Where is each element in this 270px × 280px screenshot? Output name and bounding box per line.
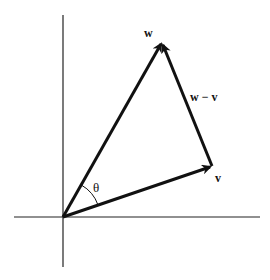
- vector-v-arrow: [63, 167, 210, 217]
- label-w-minus-v: w − v: [190, 90, 218, 104]
- label-w: w: [144, 26, 153, 40]
- label-theta: θ: [93, 180, 99, 195]
- vector-diagram: w w − v v θ: [0, 0, 270, 280]
- vector-w-arrow: [63, 44, 161, 217]
- vector-w-minus-v-arrow: [163, 45, 212, 166]
- label-v: v: [215, 171, 221, 185]
